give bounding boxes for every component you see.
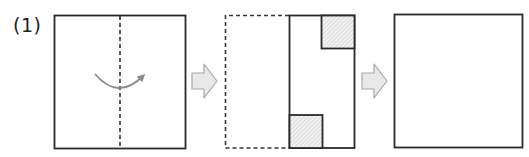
right-block-arrow-icon	[362, 64, 387, 98]
hatched-cutout-top-right	[322, 16, 355, 49]
step-2-folded-paper	[226, 16, 355, 149]
paper-folding-diagram	[0, 0, 529, 157]
right-block-arrow-icon	[192, 64, 217, 98]
hatched-cutout-bottom-left	[290, 115, 323, 148]
step-3-answer-square	[395, 15, 523, 148]
folded-away-half-dashed-outline	[226, 16, 290, 149]
transition-arrow-2	[362, 64, 387, 98]
blank-answer-square	[395, 15, 523, 148]
transition-arrow-1	[192, 64, 217, 98]
step-1-square	[55, 16, 186, 149]
